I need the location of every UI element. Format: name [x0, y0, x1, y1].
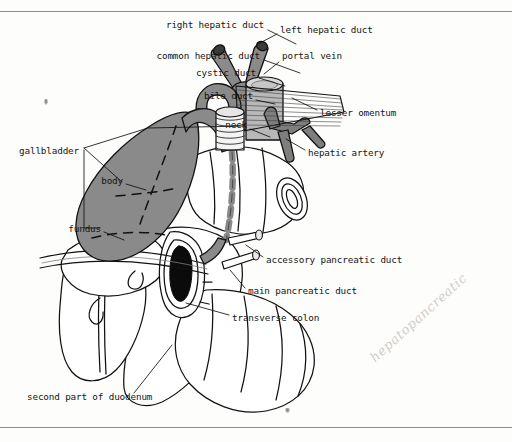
label-left-hepatic-duct: left hepatic duct: [280, 25, 373, 34]
hepatic-artery-branch-right: [302, 126, 325, 148]
figure-canvas: right hepatic duct left hepatic duct com…: [0, 0, 512, 442]
label-cystic-duct: cystic duct: [196, 68, 256, 77]
duodenal-lumen-black: [170, 246, 192, 301]
speck-duodenum: [285, 408, 290, 413]
anatomical-illustration: [0, 0, 512, 442]
label-lesser-omentum: lesser omentum: [320, 108, 396, 117]
speck-upper-left: [44, 99, 48, 105]
main-pancreatic-duct-end: [253, 250, 260, 260]
accessory-pancreatic-duct-end: [256, 230, 263, 240]
label-common-hepatic-duct: common hepatic duct: [157, 51, 261, 60]
label-second-part-of-duodenum: second part of duodenum: [27, 392, 152, 401]
label-right-hepatic-duct: right hepatic duct: [166, 20, 264, 29]
neck-cylinder-rim: [216, 107, 244, 117]
leader-portal-vein: [264, 62, 279, 74]
leader-left-hepatic-duct: [258, 34, 277, 44]
label-gallbladder: gallbladder: [19, 146, 79, 155]
label-transverse-colon: transverse colon: [232, 313, 319, 322]
label-accessory-pancreatic-duct: accessory pancreatic duct: [266, 255, 402, 264]
leader-common-hepatic-duct: [264, 60, 300, 73]
label-body: body: [101, 176, 123, 185]
label-neck: neck: [225, 120, 247, 129]
label-fundus: fundus: [68, 224, 101, 233]
label-main-pancreatic-duct: main pancreatic duct: [248, 286, 357, 295]
hepatic-artery-branch-down: [278, 130, 294, 162]
label-hepatic-artery: hepatic artery: [308, 148, 384, 157]
label-bile-duct: bile duct: [204, 91, 253, 100]
label-portal-vein: portal vein: [282, 51, 342, 60]
